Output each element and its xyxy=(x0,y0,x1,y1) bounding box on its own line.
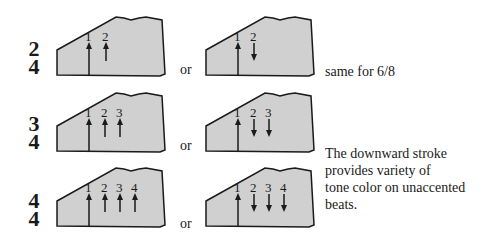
time-signature-bottom: 4 xyxy=(25,58,43,76)
beat-number: 2 xyxy=(250,106,257,120)
note-line: tone color on unaccented xyxy=(325,179,465,196)
note-line: beats. xyxy=(325,196,465,213)
beat-number: 2 xyxy=(250,30,257,44)
beat-number: 2 xyxy=(102,30,109,44)
note-line: The downward stroke xyxy=(325,145,465,162)
drum-shape-row2-right xyxy=(203,88,318,156)
beat-number: 1 xyxy=(85,181,92,195)
beat-number: 1 xyxy=(234,30,241,44)
drum-shape-row3-right xyxy=(203,163,318,231)
or-label: or xyxy=(180,62,192,78)
beat-number: 4 xyxy=(131,181,138,195)
drum-shape-row1-left xyxy=(54,12,169,80)
or-label: or xyxy=(180,216,192,232)
note-line: provides variety of xyxy=(325,162,465,179)
beat-number: 3 xyxy=(116,181,123,195)
beat-number: 2 xyxy=(101,106,108,120)
beat-number: 1 xyxy=(234,106,241,120)
beat-number: 1 xyxy=(85,30,92,44)
drum-shape-row2-left xyxy=(54,88,169,156)
beat-number: 3 xyxy=(265,106,272,120)
drum-shape-row3-left xyxy=(54,163,169,231)
or-label: or xyxy=(180,138,192,154)
beat-number: 2 xyxy=(101,181,108,195)
time-signature-bottom: 4 xyxy=(25,133,43,151)
time-signature-bottom: 4 xyxy=(25,210,43,228)
time-signature-4-4: 4 4 xyxy=(25,192,43,228)
beat-number: 4 xyxy=(280,181,287,195)
beat-number: 3 xyxy=(265,181,272,195)
downward-stroke-note: The downward stroke provides variety of … xyxy=(325,145,465,213)
beat-number: 1 xyxy=(234,181,241,195)
beat-number: 2 xyxy=(250,181,257,195)
beat-number: 1 xyxy=(85,106,92,120)
drum-shape-row1-right xyxy=(203,12,318,80)
same-for-6-8-note: same for 6/8 xyxy=(325,64,395,80)
time-signature-2-4: 2 4 xyxy=(25,40,43,76)
time-signature-3-4: 3 4 xyxy=(25,115,43,151)
beat-number: 3 xyxy=(116,106,123,120)
